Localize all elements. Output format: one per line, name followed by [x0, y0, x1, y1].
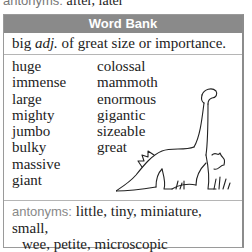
word-bank-box: Word Bank big adj. of great size or impo…	[3, 14, 244, 248]
synonym-item: jumbo	[12, 123, 66, 139]
part-of-speech: adj.	[35, 35, 58, 51]
synonyms-area: huge immense large mighty jumbo bulky ma…	[4, 55, 242, 201]
synonym-item: immense	[12, 74, 66, 90]
synonym-item: massive	[12, 156, 66, 172]
synonym-item: giant	[12, 172, 66, 188]
antonyms-values: after, later	[63, 0, 123, 8]
headword: big	[12, 35, 31, 51]
synonym-item: bulky	[12, 139, 66, 155]
dinosaur-illustration-icon	[116, 85, 244, 197]
synonyms-column-1: huge immense large mighty jumbo bulky ma…	[12, 58, 66, 188]
synonym-item: huge	[12, 58, 66, 74]
antonyms-label: antonyms:	[12, 204, 72, 219]
previous-antonyms-line: antonyms: after, later	[3, 0, 123, 9]
definition-row: big adj. of great size or importance.	[4, 33, 242, 55]
word-bank-title: Word Bank	[4, 15, 242, 33]
synonym-item: mighty	[12, 107, 66, 123]
synonym-item: large	[12, 91, 66, 107]
antonyms-text-continued: wee, petite, microscopic	[12, 236, 236, 252]
synonym-item: colossal	[97, 58, 158, 74]
antonyms-label: antonyms:	[3, 0, 63, 8]
definition-text: of great size or importance.	[62, 35, 227, 51]
antonyms-row: antonyms: little, tiny, miniature, small…	[4, 201, 242, 252]
